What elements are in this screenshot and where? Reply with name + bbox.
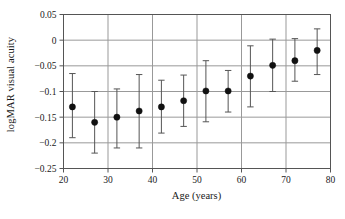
chart-figure: logMAR visual acuity 0.050−0.05−0.1−0.15… (0, 0, 345, 219)
y-tick-label: −0.1 (39, 87, 56, 97)
y-tick-label: −0.25 (35, 164, 57, 174)
x-tick-label: 80 (326, 175, 336, 185)
data-point-marker (92, 119, 98, 125)
data-point-marker (158, 104, 164, 110)
x-tick-label: 50 (192, 175, 202, 185)
y-tick-label: 0 (52, 36, 57, 46)
x-tick-label: 40 (148, 175, 158, 185)
data-point-marker (247, 73, 253, 79)
data-point-marker (114, 114, 120, 120)
y-tick-label: 0.05 (40, 10, 57, 20)
data-point-marker (181, 98, 187, 104)
data-point-marker (270, 62, 276, 68)
x-axis-label: Age (years) (63, 190, 330, 201)
x-tick-label: 60 (237, 175, 247, 185)
data-point-marker (292, 58, 298, 64)
x-tick-label: 30 (103, 175, 113, 185)
x-tick-label: 20 (59, 175, 69, 185)
y-tick-label: −0.2 (39, 138, 56, 148)
data-point-marker (225, 88, 231, 94)
data-point-marker (314, 47, 320, 53)
data-point-marker (69, 104, 75, 110)
data-point-marker (136, 108, 142, 114)
scatter-plot: 0.050−0.05−0.1−0.15−0.2−0.25203040506070… (0, 0, 345, 219)
data-point-marker (203, 88, 209, 94)
x-tick-label: 70 (281, 175, 291, 185)
y-tick-label: −0.15 (35, 113, 57, 123)
y-tick-label: −0.05 (35, 61, 57, 71)
